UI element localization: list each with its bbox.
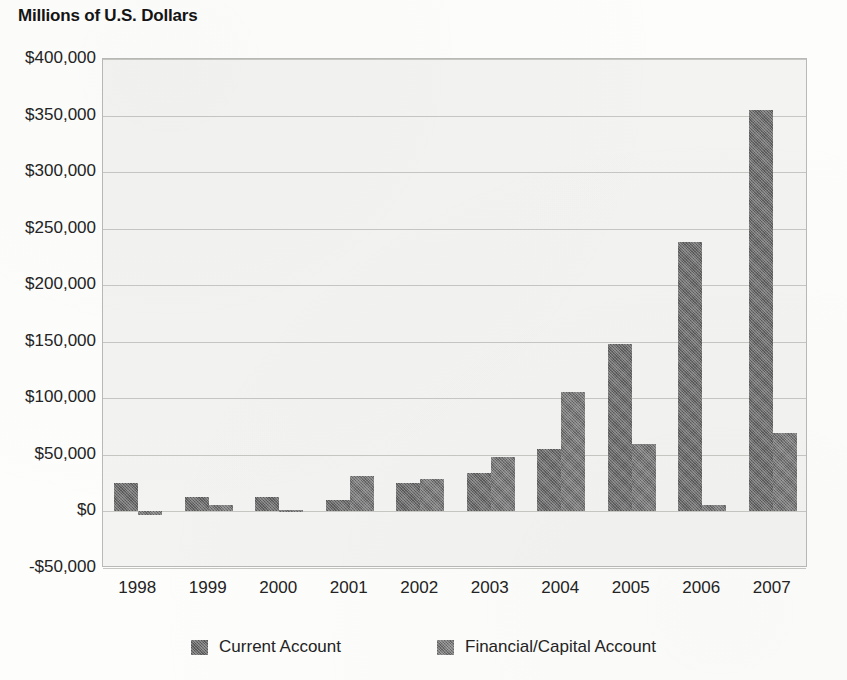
bar-1999-current-account [185, 497, 209, 512]
gridline [103, 116, 806, 117]
chart-legend: Current AccountFinancial/Capital Account [0, 630, 847, 664]
bar-2006-current-account [678, 242, 702, 511]
y-axis: $400,000$350,000$300,000$250,000$200,000… [0, 58, 96, 567]
bar-2005-current-account [608, 344, 632, 511]
y-axis-tick-label: -$50,000 [0, 557, 96, 577]
bar-2000-current-account [255, 497, 279, 512]
y-axis-tick-label: $0 [0, 500, 96, 520]
y-axis-tick-label: $400,000 [0, 48, 96, 68]
gridline [103, 342, 806, 343]
gridline [103, 172, 806, 173]
bar-2003-current-account [467, 473, 491, 511]
bar-2001-financial-capital-account [350, 476, 374, 511]
chart-title: Millions of U.S. Dollars [18, 6, 197, 26]
bar-2007-current-account [749, 110, 773, 512]
gridline [103, 568, 806, 569]
bar-1999-financial-capital-account [209, 505, 233, 512]
bar-2004-financial-capital-account [561, 392, 585, 512]
x-axis-tick-label-2007: 2007 [753, 578, 791, 598]
gridline [103, 511, 806, 512]
legend-entry-current-account: Current Account [191, 637, 341, 657]
y-axis-tick-label: $350,000 [0, 105, 96, 125]
bar-2005-financial-capital-account [632, 444, 656, 512]
legend-swatch-icon [437, 640, 454, 655]
y-axis-tick-label: $150,000 [0, 331, 96, 351]
chart-figure: Millions of U.S. Dollars $400,000$350,00… [0, 0, 847, 680]
x-axis-tick-label-2004: 2004 [541, 578, 579, 598]
plot-area [102, 58, 807, 567]
x-axis-tick-label-1999: 1999 [189, 578, 227, 598]
y-axis-tick-label: $200,000 [0, 274, 96, 294]
gridline [103, 59, 806, 60]
bar-series-layer [103, 59, 806, 566]
x-axis-tick-label-2002: 2002 [400, 578, 438, 598]
legend-label: Financial/Capital Account [465, 637, 656, 657]
x-axis: 1998199920002001200220032004200520062007 [102, 578, 807, 608]
bar-2002-current-account [396, 483, 420, 511]
x-axis-tick-label-2006: 2006 [682, 578, 720, 598]
bar-2006-financial-capital-account [702, 505, 726, 512]
legend-label: Current Account [219, 637, 341, 657]
y-axis-tick-label: $300,000 [0, 161, 96, 181]
y-axis-tick-label: $50,000 [0, 444, 96, 464]
gridline [103, 455, 806, 456]
gridline [103, 285, 806, 286]
x-axis-tick-label-2001: 2001 [330, 578, 368, 598]
legend-swatch-icon [191, 640, 208, 655]
legend-entry-financial-capital-account: Financial/Capital Account [437, 637, 656, 657]
x-axis-tick-label-2003: 2003 [471, 578, 509, 598]
bar-2001-current-account [326, 500, 350, 511]
x-axis-tick-label-2000: 2000 [259, 578, 297, 598]
bar-2007-financial-capital-account [773, 433, 797, 511]
y-axis-tick-label: $100,000 [0, 387, 96, 407]
bar-2003-financial-capital-account [491, 457, 515, 511]
gridline [103, 229, 806, 230]
bar-2004-current-account [537, 449, 561, 511]
x-axis-tick-label-2005: 2005 [612, 578, 650, 598]
y-axis-tick-label: $250,000 [0, 218, 96, 238]
x-axis-tick-label-1998: 1998 [118, 578, 156, 598]
bar-1998-current-account [114, 483, 138, 511]
gridline [103, 398, 806, 399]
bar-2002-financial-capital-account [420, 479, 444, 512]
